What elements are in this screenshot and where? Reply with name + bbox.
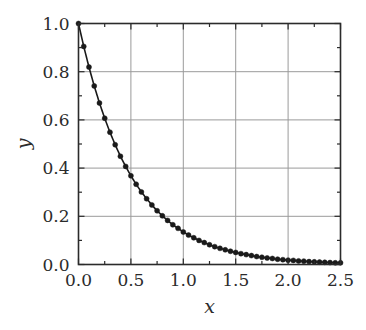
chart-figure: 0.00.51.01.52.02.5 0.00.20.40.60.81.0 x …: [0, 0, 366, 330]
data-point-marker: [144, 196, 149, 201]
data-point-marker: [197, 238, 202, 243]
data-point-marker: [217, 246, 222, 251]
data-point-marker: [191, 235, 196, 240]
data-point-marker: [254, 254, 259, 259]
x-tick-label: 0.5: [117, 270, 144, 290]
y-tick-label: 0.6: [42, 110, 69, 130]
data-point-marker: [155, 208, 160, 213]
data-point-marker: [139, 189, 144, 194]
data-point-marker: [86, 65, 91, 70]
data-point-marker: [249, 253, 254, 258]
data-point-marker: [160, 213, 165, 218]
data-point-marker: [102, 116, 107, 121]
data-point-marker: [92, 83, 97, 88]
data-point-marker: [128, 173, 133, 178]
data-point-marker: [307, 259, 312, 264]
x-axis-title: x: [204, 295, 215, 317]
y-axis-title: y: [12, 138, 34, 150]
y-tick-label: 0.4: [42, 158, 69, 178]
data-point-marker: [270, 256, 275, 261]
data-point-marker: [207, 242, 212, 247]
data-point-marker: [123, 164, 128, 169]
data-point-marker: [265, 255, 270, 260]
data-series-markers: [76, 21, 343, 265]
y-axis-tick-labels: 0.00.20.40.60.81.0: [42, 14, 69, 275]
data-point-marker: [134, 182, 139, 187]
y-tick-label: 1.0: [42, 14, 69, 34]
data-point-marker: [107, 130, 112, 135]
data-point-marker: [165, 218, 170, 223]
x-tick-label: 2.0: [275, 270, 302, 290]
data-point-marker: [280, 257, 285, 262]
data-point-marker: [202, 240, 207, 245]
data-point-marker: [186, 233, 191, 238]
data-point-marker: [212, 244, 217, 249]
y-tick-label: 0.2: [42, 206, 69, 226]
data-point-marker: [176, 226, 181, 231]
data-point-marker: [113, 142, 118, 147]
data-point-marker: [97, 101, 102, 106]
data-point-marker: [296, 258, 301, 263]
data-point-marker: [233, 250, 238, 255]
data-point-marker: [228, 249, 233, 254]
data-point-marker: [223, 247, 228, 252]
x-tick-label: 1.0: [170, 270, 197, 290]
data-series-line: [79, 24, 341, 263]
data-point-marker: [275, 257, 280, 262]
series-path: [79, 24, 341, 263]
data-point-marker: [301, 259, 306, 264]
data-point-marker: [259, 255, 264, 260]
x-axis-tick-labels: 0.00.51.01.52.02.5: [65, 270, 354, 290]
data-point-marker: [149, 202, 154, 207]
data-point-marker: [244, 252, 249, 257]
plot-canvas: 0.00.51.01.52.02.5 0.00.20.40.60.81.0 x …: [0, 0, 366, 330]
data-point-marker: [291, 258, 296, 263]
x-tick-label: 2.5: [327, 270, 354, 290]
y-tick-label: 0.8: [42, 62, 69, 82]
data-point-marker: [238, 251, 243, 256]
x-tick-label: 1.5: [222, 270, 249, 290]
data-point-marker: [170, 222, 175, 227]
data-point-marker: [181, 229, 186, 234]
data-point-marker: [118, 154, 123, 159]
y-tick-label: 0.0: [42, 255, 69, 275]
